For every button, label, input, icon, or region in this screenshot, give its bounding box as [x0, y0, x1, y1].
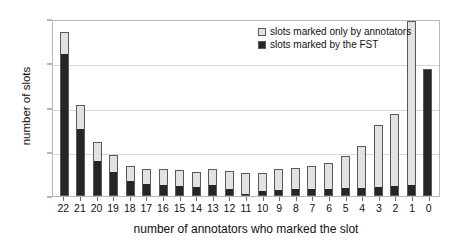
x-tick-mark-6: [329, 197, 330, 201]
x-tick-mark-3: [379, 197, 380, 201]
x-tick-mark-18: [130, 197, 131, 201]
x-tick-label-2: 2: [387, 202, 404, 214]
bar-segment-fst-0: [424, 70, 431, 195]
x-tick-label-3: 3: [371, 202, 388, 214]
bar-segment-fst-14: [193, 187, 200, 195]
bar-6: [324, 163, 333, 196]
x-tick-mark-4: [362, 197, 363, 201]
x-tick-19: 19: [105, 197, 122, 215]
x-tick-mark-21: [80, 197, 81, 201]
bar-0: [423, 69, 432, 196]
x-tick-label-18: 18: [121, 202, 138, 214]
bar-13: [208, 169, 217, 196]
bar-segment-fst-10: [259, 191, 266, 195]
legend: slots marked only by annotatorsslots mar…: [258, 26, 411, 50]
x-tick-6: 6: [321, 197, 338, 215]
legend-item-1: slots marked by the FST: [258, 39, 411, 50]
x-tick-label-9: 9: [271, 202, 288, 214]
x-tick-mark-7: [312, 197, 313, 201]
x-tick-13: 13: [204, 197, 221, 215]
x-tick-label-19: 19: [105, 202, 122, 214]
bar-segment-fst-1: [408, 185, 415, 195]
x-tick-14: 14: [188, 197, 205, 215]
bar-segment-fst-22: [61, 54, 68, 195]
x-tick-5: 5: [337, 197, 354, 215]
x-tick-18: 18: [121, 197, 138, 215]
x-tick-9: 9: [271, 197, 288, 215]
bar-column: [205, 21, 222, 196]
x-tick-mark-17: [146, 197, 147, 201]
bar-segment-fst-12: [226, 189, 233, 196]
bar-11: [241, 173, 250, 196]
bar-column: [172, 21, 189, 196]
x-tick-0: 0: [420, 197, 437, 215]
bar-segment-fst-2: [391, 186, 398, 195]
x-tick-8: 8: [288, 197, 305, 215]
bar-segment-fst-8: [292, 189, 299, 195]
legend-label-1: slots marked by the FST: [270, 39, 378, 50]
bar-column: [106, 21, 123, 196]
bar-2: [390, 114, 399, 196]
bar-18: [126, 166, 135, 196]
bar-9: [274, 169, 283, 196]
x-tick-label-6: 6: [321, 202, 338, 214]
x-tick-label-21: 21: [72, 202, 89, 214]
bar-column: [419, 21, 436, 196]
x-tick-label-10: 10: [254, 202, 271, 214]
x-axis-ticks: 222120191817161514131211109876543210: [52, 197, 440, 215]
x-tick-15: 15: [171, 197, 188, 215]
x-tick-1: 1: [404, 197, 421, 215]
bar-column: [238, 21, 255, 196]
bar-10: [258, 173, 267, 196]
bar-19: [109, 155, 118, 196]
bar-segment-fst-16: [160, 185, 167, 195]
bar-8: [291, 168, 300, 196]
bar-segment-fst-6: [325, 189, 332, 195]
x-tick-label-11: 11: [238, 202, 255, 214]
bar-column: [221, 21, 238, 196]
x-tick-3: 3: [371, 197, 388, 215]
x-tick-mark-8: [296, 197, 297, 201]
bar-12: [225, 171, 234, 196]
bar-segment-fst-15: [176, 186, 183, 195]
bar-segment-fst-19: [110, 172, 117, 195]
x-tick-label-15: 15: [171, 202, 188, 214]
bar-20: [93, 142, 102, 196]
legend-swatch-1: [258, 41, 266, 49]
bar-column: [89, 21, 106, 196]
x-tick-20: 20: [88, 197, 105, 215]
x-tick-mark-9: [279, 197, 280, 201]
bar-column: [139, 21, 156, 196]
bar-column: [122, 21, 139, 196]
x-tick-label-13: 13: [204, 202, 221, 214]
x-tick-label-7: 7: [304, 202, 321, 214]
x-tick-label-0: 0: [420, 202, 437, 214]
bar-segment-fst-21: [77, 129, 84, 195]
x-tick-mark-2: [395, 197, 396, 201]
bar-segment-fst-18: [127, 181, 134, 195]
x-tick-mark-20: [97, 197, 98, 201]
y-axis-title: number of slots: [20, 26, 32, 186]
x-tick-mark-13: [213, 197, 214, 201]
bar-22: [60, 32, 69, 196]
x-tick-mark-12: [229, 197, 230, 201]
legend-item-0: slots marked only by annotators: [258, 26, 411, 37]
x-tick-mark-0: [429, 197, 430, 201]
x-tick-22: 22: [55, 197, 72, 215]
x-tick-12: 12: [221, 197, 238, 215]
x-tick-mark-10: [263, 197, 264, 201]
bar-4: [357, 146, 366, 196]
bar-segment-fst-3: [375, 187, 382, 195]
x-tick-label-17: 17: [138, 202, 155, 214]
bar-segment-fst-7: [308, 189, 315, 195]
x-tick-16: 16: [155, 197, 172, 215]
x-axis-title: number of annotators who marked the slot: [52, 222, 440, 236]
x-tick-mark-15: [180, 197, 181, 201]
x-tick-label-16: 16: [155, 202, 172, 214]
bar-16: [159, 169, 168, 196]
x-tick-label-14: 14: [188, 202, 205, 214]
bar-column: [56, 21, 73, 196]
bar-14: [192, 172, 201, 196]
x-tick-label-20: 20: [88, 202, 105, 214]
bar-column: [155, 21, 172, 196]
